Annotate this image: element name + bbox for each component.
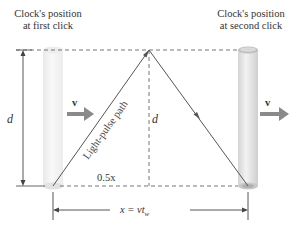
- first-click-label: Clock's position at first click: [6, 8, 90, 32]
- first-click-line1: Clock's position: [6, 8, 90, 20]
- diagram-canvas: Light-pulse path: [0, 0, 301, 230]
- light-pulse-path: [53, 50, 248, 186]
- distance-formula: x = vt: [120, 204, 145, 215]
- second-click-line1: Clock's position: [206, 8, 296, 20]
- distance-label: x = vtw: [120, 204, 149, 220]
- velocity-arrow-left: [67, 107, 94, 121]
- clock-cylinder-second: [238, 47, 258, 190]
- velocity-label-left: v: [72, 97, 77, 109]
- velocity-label-right: v: [265, 97, 270, 109]
- distance-dimension-arrow: [53, 192, 248, 220]
- first-click-line2: at first click: [6, 20, 90, 32]
- second-click-label: Clock's position at second click: [206, 8, 296, 32]
- height-label-center: d: [152, 113, 158, 125]
- height-dimension-arrow: [21, 50, 26, 186]
- velocity-arrow-right: [260, 107, 289, 121]
- height-label-left: d: [7, 113, 13, 125]
- second-click-line2: at second click: [206, 20, 296, 32]
- light-path-label: Light-pulse path: [81, 98, 131, 161]
- clock-cylinder-first: [43, 47, 63, 190]
- distance-subscript: w: [145, 210, 150, 218]
- half-distance-label: 0.5x: [97, 172, 115, 184]
